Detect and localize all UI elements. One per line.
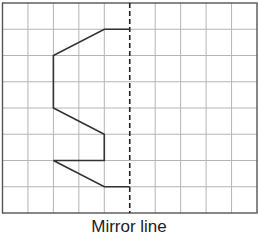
reflection-grid-diagram: [0, 0, 258, 239]
mirror-line-label: Mirror line: [0, 217, 258, 237]
